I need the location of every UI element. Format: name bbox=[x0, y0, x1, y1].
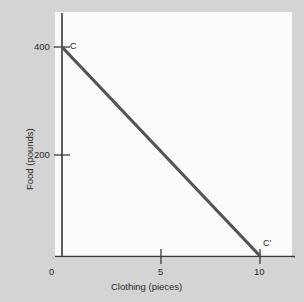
x-axis-title: Clothing (pieces) bbox=[111, 281, 182, 292]
annotation-point-c-prime: C' bbox=[263, 238, 271, 248]
x-tick-label-0: 0 bbox=[49, 266, 54, 277]
chart-figure: 400 200 0 5 10 C C' Food (pounds) Clothi… bbox=[0, 0, 304, 302]
y-tick-label-400: 400 bbox=[34, 41, 50, 52]
series-line-budget-constraint bbox=[62, 47, 260, 256]
y-axis-title: Food (pounds) bbox=[24, 128, 35, 190]
x-tick-label-5: 5 bbox=[158, 266, 163, 277]
y-tick-label-200: 200 bbox=[34, 149, 50, 160]
annotation-point-c: C bbox=[70, 41, 77, 51]
x-tick-label-10: 10 bbox=[254, 266, 265, 277]
